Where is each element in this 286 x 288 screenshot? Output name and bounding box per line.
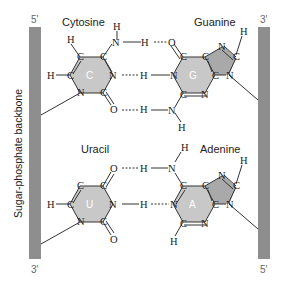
svg-text:H: H: [170, 236, 178, 247]
hbonds-cg: H H H: [122, 37, 170, 115]
svg-text:C: C: [100, 87, 107, 98]
adenine-abbr: A: [189, 199, 196, 210]
svg-text:O: O: [168, 37, 176, 48]
backbone-label: Sugar-phosphate backbone: [12, 89, 24, 218]
guanine-abbr: G: [189, 70, 197, 81]
svg-text:H: H: [113, 21, 121, 32]
adenine-name: Adenine: [200, 143, 240, 155]
svg-text:N: N: [201, 218, 209, 229]
svg-text:C: C: [233, 180, 240, 191]
svg-text:N: N: [109, 70, 117, 81]
svg-text:H: H: [140, 199, 148, 210]
svg-text:N: N: [77, 216, 85, 227]
svg-text:H: H: [47, 70, 55, 81]
guanine-name: Guanine: [194, 16, 236, 28]
svg-text:C: C: [100, 180, 107, 191]
right-top-label: 3': [260, 14, 268, 25]
left-bottom-label: 3': [31, 264, 39, 275]
cytosine-name: Cytosine: [62, 16, 105, 28]
svg-text:N: N: [112, 37, 120, 48]
svg-text:C: C: [180, 180, 187, 191]
guanine-group: Guanine G O C C N C H N C N C N N H: [168, 16, 258, 133]
svg-text:N: N: [168, 105, 176, 116]
svg-text:C: C: [212, 199, 219, 210]
svg-text:N: N: [170, 70, 178, 81]
svg-text:C: C: [180, 218, 187, 229]
svg-text:H: H: [240, 26, 248, 37]
left-top-label: 5': [31, 14, 39, 25]
svg-text:N: N: [170, 199, 178, 210]
svg-text:N: N: [226, 70, 234, 81]
svg-text:N: N: [218, 41, 226, 52]
svg-text:C: C: [202, 51, 209, 62]
svg-text:C: C: [100, 216, 107, 227]
cytosine-group: Cytosine C H C C H N H C N N C O: [41, 16, 141, 115]
base-pair-diagram: 5' 3' 3' 5' Sugar-phosphate backbone Cyt…: [0, 0, 286, 288]
svg-text:C: C: [180, 89, 187, 100]
svg-text:H: H: [141, 37, 149, 48]
svg-text:O: O: [110, 163, 118, 174]
svg-text:C: C: [77, 180, 84, 191]
svg-text:H: H: [178, 122, 186, 133]
svg-text:C: C: [233, 51, 240, 62]
right-bottom-label: 5': [260, 264, 268, 275]
svg-text:H: H: [181, 142, 189, 153]
uracil-name: Uracil: [81, 143, 109, 155]
svg-text:C: C: [67, 70, 74, 81]
uracil-group: Uracil U O C C H C N N C O: [41, 143, 118, 245]
svg-text:C: C: [212, 70, 219, 81]
svg-text:O: O: [110, 104, 118, 115]
svg-text:N: N: [77, 87, 85, 98]
hbonds-ua: H H: [122, 163, 169, 210]
svg-text:H: H: [140, 163, 148, 174]
svg-text:H: H: [140, 70, 148, 81]
svg-text:H: H: [67, 34, 75, 45]
svg-text:C: C: [67, 199, 74, 210]
svg-text:C: C: [100, 51, 107, 62]
svg-text:N: N: [109, 199, 117, 210]
svg-text:N: N: [168, 163, 176, 174]
adenine-group: Adenine A H N C C N C H N C N C N H: [168, 142, 258, 247]
svg-text:O: O: [110, 234, 118, 245]
svg-text:H: H: [47, 199, 55, 210]
svg-text:C: C: [180, 51, 187, 62]
cytosine-abbr: C: [86, 70, 93, 81]
svg-text:C: C: [77, 51, 84, 62]
left-backbone: [29, 27, 41, 259]
svg-text:H: H: [140, 104, 148, 115]
svg-text:C: C: [202, 180, 209, 191]
svg-text:N: N: [201, 89, 209, 100]
svg-text:N: N: [218, 170, 226, 181]
right-backbone: [258, 27, 270, 259]
svg-text:N: N: [226, 199, 234, 210]
uracil-abbr: U: [86, 199, 93, 210]
svg-text:H: H: [240, 155, 248, 166]
